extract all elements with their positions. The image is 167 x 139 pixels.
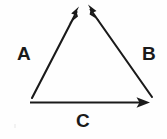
vector-label-a: A [17,44,31,63]
diagram-canvas: A B C [0,0,167,139]
vector-c-group [30,97,150,108]
vector-label-c: C [76,111,90,130]
vector-a-shaft [32,12,77,98]
scan-speck [14,124,16,128]
vector-label-b: B [142,44,156,63]
vector-a-group [32,7,79,99]
